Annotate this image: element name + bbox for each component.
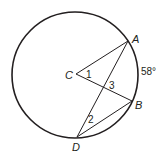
point-b-label: B — [135, 99, 142, 111]
point-a-label: A — [131, 33, 139, 45]
point-c-label: C — [65, 69, 73, 81]
angle-1-label: 1 — [86, 69, 92, 80]
angle-2-label: 2 — [88, 114, 94, 125]
circle-diagram: A B C D 1 2 3 58° — [0, 0, 160, 154]
circle — [12, 12, 138, 138]
point-d-label: D — [72, 141, 80, 153]
segment-bd — [77, 101, 132, 137]
segment-ad — [77, 41, 128, 137]
segment-cb — [76, 74, 132, 101]
arc-ab-measure: 58° — [141, 66, 156, 77]
segment-ca — [76, 41, 128, 74]
angle-3-label: 3 — [109, 80, 115, 91]
